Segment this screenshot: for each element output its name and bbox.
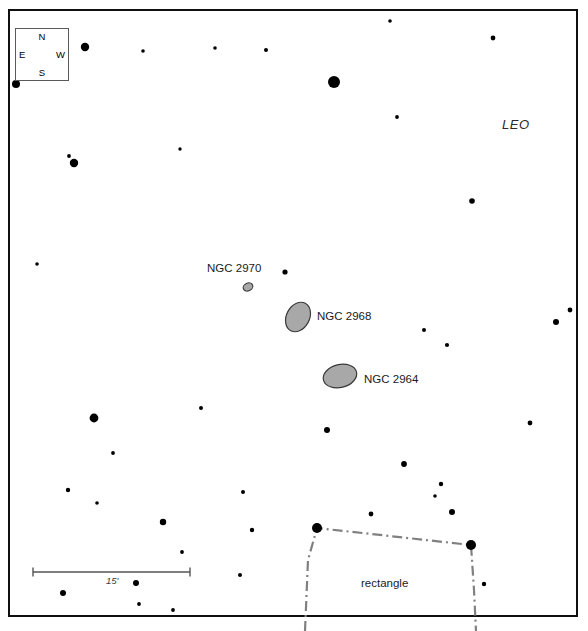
compass-rose-box: N S E W [15, 28, 69, 81]
constellation-label-leo: LEO [502, 118, 530, 131]
galaxy-label-ngc-2964: NGC 2964 [364, 374, 418, 386]
galaxy-label-ngc-2970: NGC 2970 [207, 263, 261, 275]
compass-north-label: N [39, 32, 46, 42]
compass-west-label: W [56, 50, 65, 60]
region-overlay-label: rectangle [361, 578, 408, 590]
sky-chart-frame [8, 9, 578, 617]
compass-south-label: S [39, 68, 45, 78]
scale-bar-label: 15' [106, 576, 118, 586]
star-chart-root: N S E W LEO NGC 2970 NGC 2968 NGC 2964 1… [0, 0, 588, 631]
compass-east-label: E [19, 50, 25, 60]
galaxy-label-ngc-2968: NGC 2968 [317, 311, 371, 323]
